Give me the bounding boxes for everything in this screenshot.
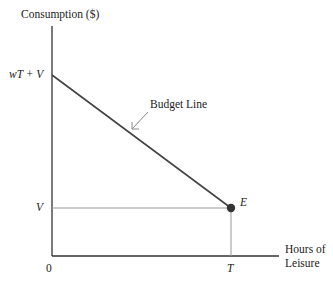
diagram-canvas [0, 0, 333, 288]
y-tick-wt-plus-v: wT + V [9, 68, 43, 81]
x-axis-label-line1: Hours of [285, 243, 326, 256]
point-e-label: E [240, 196, 247, 209]
x-axis-label-line2: Leisure [285, 257, 319, 270]
budget-line [52, 75, 231, 208]
y-tick-v: V [36, 201, 43, 214]
origin-label: 0 [46, 262, 52, 275]
budget-line-label: Budget Line [150, 98, 207, 111]
endowment-point [227, 204, 235, 212]
y-axis-label: Consumption ($) [21, 8, 99, 21]
callout-arrow-icon [132, 112, 148, 129]
x-tick-t: T [227, 262, 233, 275]
